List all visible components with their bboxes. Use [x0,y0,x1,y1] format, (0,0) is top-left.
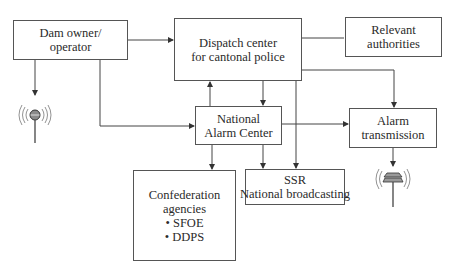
node-label-line: National broadcasting [240,187,350,201]
node-alarm-transmission: Alarm transmission [349,108,437,148]
node-label-line: agencies [163,202,206,216]
node-relevant-authorities: Relevant authorities [345,17,442,57]
node-dispatch-center: Dispatch center for cantonal police [174,18,302,81]
node-label-line: Confederation [149,188,221,202]
radio-siren-icon [15,103,55,143]
node-ssr-broadcasting: SSR National broadcasting [245,169,345,205]
alarm-siren-icon [373,167,413,209]
node-label-bullet: • DDPS [165,230,204,244]
node-label-line: Alarm Center [204,126,272,140]
node-label-bullet: • SFOE [165,216,203,230]
node-label-line: Relevant [371,23,415,37]
node-label-line: operator [50,40,92,54]
node-national-alarm-center: National Alarm Center [195,106,282,145]
node-label-line: transmission [361,128,424,142]
node-label-line: National [217,112,260,126]
node-label-line: Dispatch center [199,36,277,50]
node-label-line: Dam owner/ [39,26,101,40]
node-label-line: Alarm [377,114,409,128]
node-label-line: authorities [367,37,420,51]
node-label-line: for cantonal police [191,50,285,64]
node-dam-owner: Dam owner/ operator [13,20,128,60]
node-confederation-agencies: Confederation agencies • SFOE • DDPS [133,170,236,261]
node-label-line: SSR [284,173,306,187]
edge-dispatch-to-alarm [302,70,394,107]
